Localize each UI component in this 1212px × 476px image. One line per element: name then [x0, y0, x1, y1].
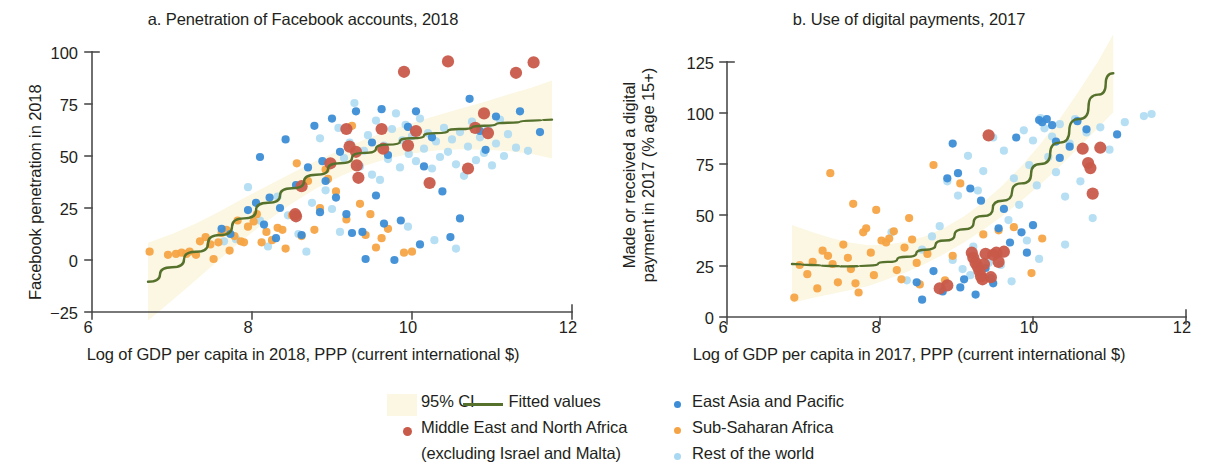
legend: 95% CI Fitted values Middle East and Nor…	[0, 392, 1212, 476]
legend-label-95ci: 95% CI	[421, 392, 475, 411]
legend-entry-sub-saharan-africa: Sub-Saharan Africa	[672, 418, 972, 444]
sub-saharan-africa-dot-icon	[672, 418, 692, 444]
legend-entry-rest-of-world: Rest of the world	[672, 444, 972, 470]
legend-entry-east-asia-pacific: East Asia and Pacific	[672, 392, 972, 418]
panel-a-plot-area	[0, 0, 606, 380]
mena-dot-icon	[401, 418, 421, 444]
legend-entry-mena: Middle East and North Africa	[401, 418, 669, 444]
legend-row-ci-fitted: 95% CI Fitted values	[401, 392, 669, 418]
legend-entry-fitted-values: Fitted values	[489, 392, 601, 418]
figure-container: a. Penetration of Facebook accounts, 201…	[0, 0, 1212, 476]
legend-entry-mena-note: (excluding Israel and Malta)	[401, 444, 669, 470]
panel-b-plot-area	[606, 0, 1212, 380]
legend-label-fitted-values: Fitted values	[509, 392, 601, 411]
legend-label-mena-exclusion: (excluding Israel and Malta)	[421, 444, 621, 463]
legend-column-left: 95% CI Fitted values Middle East and Nor…	[401, 392, 669, 470]
rest-of-world-dot-icon	[672, 444, 692, 470]
panel-b: b. Use of digital payments, 2017 Made or…	[606, 0, 1212, 380]
confidence-band-icon	[401, 392, 421, 418]
east-asia-pacific-dot-icon	[672, 392, 692, 418]
panel-a: a. Penetration of Facebook accounts, 201…	[0, 0, 606, 380]
legend-column-right: East Asia and Pacific Sub-Saharan Africa…	[672, 392, 972, 470]
legend-label-east-asia-pacific: East Asia and Pacific	[692, 392, 844, 411]
legend-label-mena: Middle East and North Africa	[421, 418, 627, 437]
legend-label-sub-saharan-africa: Sub-Saharan Africa	[692, 418, 833, 437]
fitted-line-icon	[489, 392, 509, 418]
legend-label-rest-of-world: Rest of the world	[692, 444, 814, 463]
